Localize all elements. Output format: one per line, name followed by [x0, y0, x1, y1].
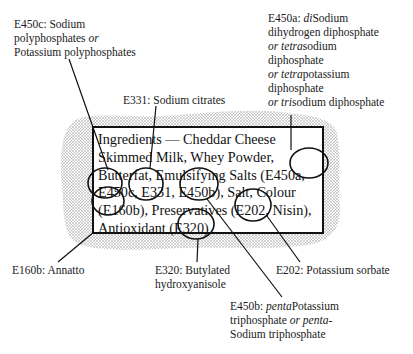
- annotation-line: diphosphate: [268, 81, 384, 95]
- annotation-e331: E331: Sodium citrates: [123, 93, 225, 107]
- annotation-line: E160b: Annatto: [12, 263, 85, 277]
- annotation-line: triphosphate or penta-: [230, 313, 339, 327]
- annotation-line: or tetrapotassium: [268, 67, 384, 81]
- annotation-e450b: E450b: pentaPotassiumtriphosphate or pen…: [230, 299, 339, 341]
- ingredients-line: Skimmed Milk, Whey Powder,: [98, 149, 312, 167]
- annotation-line: hydroxyanisole: [155, 277, 230, 291]
- annotation-line: Potassium polyphosphates: [14, 45, 136, 59]
- annotation-line: diphosphate: [268, 53, 384, 67]
- annotation-e160b: E160b: Annatto: [12, 263, 85, 277]
- ingredients-text: Ingredients — Cheddar Cheese Skimmed Mil…: [98, 131, 312, 238]
- annotation-line: polyphosphates or: [14, 31, 136, 45]
- annotation-e320: E320: Butylatedhydroxyanisole: [155, 263, 230, 291]
- ingredients-line: Antioxidant (E320): [98, 220, 312, 238]
- annotation-line: E331: Sodium citrates: [123, 93, 225, 107]
- annotation-line: E450c: Sodium: [14, 17, 136, 31]
- annotation-e202: E202: Potassium sorbate: [276, 263, 390, 277]
- annotation-line: dihydrogen diphosphate: [268, 25, 384, 39]
- annotation-line: E450b: pentaPotassium: [230, 299, 339, 313]
- annotation-e450c: E450c: Sodiumpolyphosphates orPotassium …: [14, 17, 136, 59]
- annotation-e450a: E450a: diSodiumdihydrogen diphosphateor …: [268, 11, 384, 109]
- annotation-line: E320: Butylated: [155, 263, 230, 277]
- annotation-line: E202: Potassium sorbate: [276, 263, 390, 277]
- ingredients-line: E450c, E331, E450b), Salt, Colour: [98, 184, 312, 202]
- annotation-line: Sodium triphosphate: [230, 327, 339, 341]
- annotation-line: or trisodium diphosphate: [268, 95, 384, 109]
- ingredients-line: Ingredients — Cheddar Cheese: [98, 131, 312, 149]
- ingredients-line: (E160b), Preservatives (E202, Nisin),: [98, 202, 312, 220]
- annotation-line: or tetrasodium: [268, 39, 384, 53]
- annotation-line: E450a: diSodium: [268, 11, 384, 25]
- ingredients-line: Butterfat, Emulsifying Salts (E450a,: [98, 167, 312, 185]
